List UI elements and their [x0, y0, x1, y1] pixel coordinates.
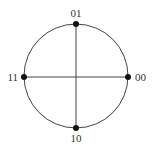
label-10: 10: [71, 132, 83, 144]
label-00: 00: [135, 71, 147, 83]
point-00-dot: [125, 74, 131, 80]
point-01-dot: [73, 21, 79, 27]
label-11: 11: [7, 71, 18, 83]
point-10-dot: [73, 125, 79, 131]
label-01: 01: [71, 7, 82, 19]
point-11-dot: [21, 74, 27, 80]
constellation-diagram: 01 00 10 11: [0, 0, 153, 152]
